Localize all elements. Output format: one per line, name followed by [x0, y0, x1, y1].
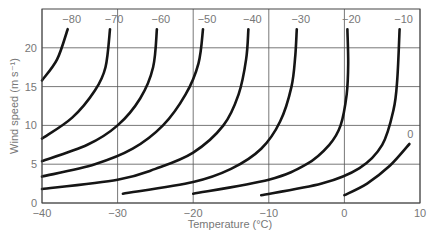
- curve-minus50: [42, 29, 203, 176]
- y-tick-label: 5: [31, 158, 37, 170]
- y-axis-label: Wind speed (m s⁻¹): [8, 58, 20, 154]
- y-tick-label: 10: [25, 119, 37, 131]
- curve-minus30: [123, 29, 297, 194]
- curves: [42, 29, 409, 195]
- y-tick-label: 0: [31, 197, 37, 209]
- curve-label: −70: [105, 13, 124, 25]
- curve-label: −10: [394, 13, 413, 25]
- curve-label: −20: [342, 13, 361, 25]
- x-tick-label: 0: [341, 207, 347, 219]
- curve-labels: −80−70−60−50−40−30−20−100: [62, 13, 413, 140]
- curve-label: −50: [198, 13, 217, 25]
- x-tick-label: −30: [108, 207, 127, 219]
- curve-minus10: [261, 29, 399, 195]
- curve-minus70: [42, 29, 110, 138]
- curve-minus80: [42, 29, 68, 80]
- curve-minus60: [42, 29, 157, 161]
- curve-label: −80: [62, 13, 81, 25]
- curve-label: −30: [291, 13, 310, 25]
- curve-minus40: [42, 29, 248, 189]
- curve-minus20: [193, 29, 348, 194]
- plot-frame: [42, 9, 420, 203]
- wind-chill-chart: −80−70−60−50−40−30−20−100 −40−30−20−1001…: [0, 0, 437, 240]
- y-tick-label: 20: [25, 42, 37, 54]
- x-tick-label: 10: [414, 207, 426, 219]
- curve-label: 0: [407, 128, 413, 140]
- grid-lines: [42, 9, 420, 203]
- y-tick-label: 15: [25, 81, 37, 93]
- x-axis-label: Temperature (°C): [188, 218, 272, 230]
- curve-label: −60: [152, 13, 171, 25]
- curve-label: −40: [243, 13, 262, 25]
- axis-ticks: −40−30−20−1001005101520: [25, 42, 426, 219]
